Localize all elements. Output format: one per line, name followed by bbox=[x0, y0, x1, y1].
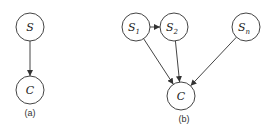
edge-b-sn-to-c bbox=[191, 37, 237, 86]
caption-a: (a) bbox=[25, 108, 36, 118]
node-a-c: C bbox=[16, 76, 44, 104]
nodes: SCS1S2SnC bbox=[16, 13, 260, 110]
edge-b-s2-to-c bbox=[175, 41, 179, 82]
caption-b: (b) bbox=[179, 114, 190, 124]
node-b-s2: S2 bbox=[160, 13, 188, 41]
edge-b-s1-to-c bbox=[144, 39, 174, 85]
node-label: C bbox=[177, 90, 186, 103]
node-subscript: 1 bbox=[136, 28, 140, 36]
node-b-s1: S1 bbox=[122, 13, 150, 41]
node-b-c: C bbox=[167, 82, 195, 110]
node-b-sn: Sn bbox=[232, 13, 260, 41]
bayesian-network-figure: SCS1S2SnC (a) (b) bbox=[0, 0, 267, 140]
node-a-s: S bbox=[16, 13, 44, 41]
node-subscript: n bbox=[246, 28, 251, 36]
node-label: C bbox=[26, 84, 35, 97]
node-label: S bbox=[26, 21, 34, 34]
node-subscript: 2 bbox=[173, 28, 179, 36]
